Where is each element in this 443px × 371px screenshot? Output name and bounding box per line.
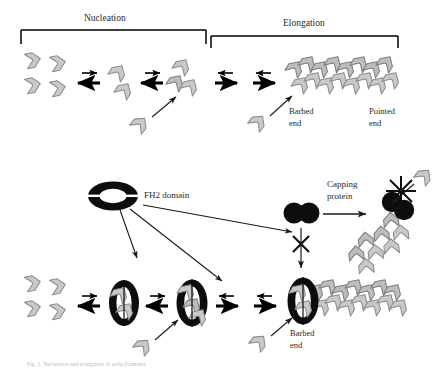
blocked-monomer-addition [386,166,434,206]
elongation-arrows-1 [215,73,237,83]
incoming-monomer-nucleation [130,97,176,134]
capped-filament [339,192,418,280]
nucleation-bracket [21,30,206,44]
actin-trimer-nucleus [166,56,200,96]
barbed-end-label-bottom-line2: end [290,341,302,350]
bottom-equilibrium-arrows-1 [78,296,100,306]
capping-protein-label-line2: protein [327,192,353,202]
equilibrium-arrows-2 [141,73,163,83]
pointed-end-label-line1: Pointed [369,107,395,116]
figure-canvas: Nucleation Elongation Barbed end Pointed… [0,0,443,371]
barbed-end-label-line1: Barbed [289,107,314,116]
fh2-arrow-to-capping-block [143,205,292,232]
bottom-equilibrium-arrows-2 [146,296,168,306]
fh2-arrow-to-dimer [120,210,137,258]
fh2-arrow-to-trimer [130,209,222,281]
actin-monomer-pool-bottom [24,274,66,320]
blocked-capping-arrow [293,228,309,268]
fh2-domain-ring [86,182,140,211]
fh2-bound-trimer [177,279,210,327]
incoming-monomer-elongation [248,96,292,132]
elongation-arrows-2 [253,73,275,83]
capping-protein [284,203,320,224]
incoming-monomer-barbed-bottom [249,318,292,352]
elongation-label: Elongation [283,18,325,28]
bottom-elongation-arrows-1 [216,296,238,306]
fh2-filament-strands [306,276,410,316]
figure-caption: Fig. 1. Nucleation and elongation of act… [27,362,146,368]
nucleation-label: Nucleation [84,13,126,23]
barbed-end-label-line2: end [289,119,301,128]
fh2-bound-dimer [109,280,139,326]
barbed-end-label-bottom-line1: Barbed [290,329,315,338]
pointed-end-label-line2: end [369,119,381,128]
fh2-capped-filament [288,276,411,325]
elongation-bracket [211,36,398,48]
actin-nucleation-elongation-diagram [0,0,443,371]
actin-filament-top [285,53,402,94]
capping-protein-label-line1: Capping [327,180,358,190]
actin-dimer-top [108,62,134,100]
actin-monomer-pool-top [24,51,66,97]
bottom-elongation-arrows-2 [254,296,276,306]
equilibrium-arrows-1 [78,73,100,83]
incoming-monomer-fh2-trimer [133,320,178,356]
fh2-domain-label: FH2 domain [144,191,189,201]
